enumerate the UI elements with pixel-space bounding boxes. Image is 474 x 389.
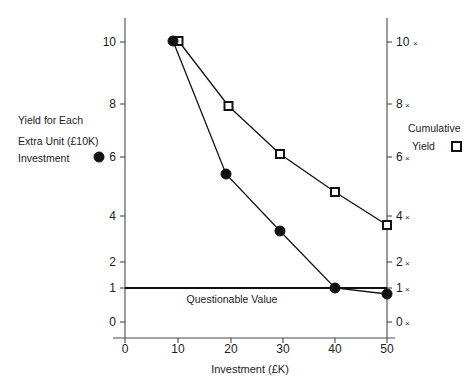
legend-open-square-icon <box>452 142 461 151</box>
bottom-tick-label-40: 40 <box>328 342 342 356</box>
bottom-tick-label-0: 0 <box>122 342 129 356</box>
legend-right-line-2: Yield <box>412 140 435 152</box>
legend-left-line-1: Yield for Each <box>18 114 83 126</box>
legend-left-line-2: Extra Unit (£10K) <box>18 135 99 147</box>
legend-filled-circle-icon <box>94 152 104 162</box>
marginal-yield-point-10 <box>168 36 178 46</box>
questionable-value-annotation: Questionable Value <box>187 293 278 305</box>
left-tick-label-8: 8 <box>109 97 116 111</box>
legend-left-line-3: Investment <box>18 152 69 164</box>
marginal-yield-point-50 <box>382 289 392 299</box>
right-tick-suffix-1: × <box>405 285 410 294</box>
cumulative-yield-point-20 <box>225 102 233 110</box>
right-tick-suffix-2: × <box>405 259 410 268</box>
left-tick-label-6: 6 <box>109 150 116 164</box>
right-tick-suffix-6: × <box>405 154 410 163</box>
cumulative-yield-point-30 <box>276 150 284 158</box>
left-tick-label-10: 10 <box>103 35 117 49</box>
right-tick-suffix-0: × <box>405 319 410 328</box>
marginal-yield-point-20 <box>221 169 231 179</box>
right-tick-suffix-4: × <box>405 213 410 222</box>
cumulative-yield-point-50 <box>383 221 391 229</box>
right-tick-label-0: 0 <box>396 315 403 329</box>
legend-right-line-1: Cumulative <box>408 122 461 134</box>
marginal-yield-point-30 <box>275 226 285 236</box>
chart-figure: 10 8 6 4 2 1 0 10 × 8 × <box>0 0 474 389</box>
right-tick-label-6: 6 <box>396 150 403 164</box>
left-tick-label-2: 2 <box>109 255 116 269</box>
marginal-yield-point-40 <box>330 283 340 293</box>
right-tick-label-10: 10 <box>396 35 410 49</box>
right-tick-label-1: 1 <box>396 281 403 295</box>
bottom-tick-label-30: 30 <box>276 342 290 356</box>
investment-yield-line-chart: 10 8 6 4 2 1 0 10 × 8 × <box>0 0 474 389</box>
right-tick-label-4: 4 <box>396 209 403 223</box>
right-tick-suffix-10: × <box>413 39 418 48</box>
left-tick-label-0: 0 <box>109 315 116 329</box>
bottom-tick-label-10: 10 <box>171 342 185 356</box>
left-tick-label-1: 1 <box>109 281 116 295</box>
chart-background <box>0 0 474 389</box>
right-tick-label-2: 2 <box>396 255 403 269</box>
right-tick-label-8: 8 <box>396 97 403 111</box>
bottom-tick-label-20: 20 <box>224 342 238 356</box>
bottom-tick-label-50: 50 <box>380 342 394 356</box>
cumulative-yield-point-40 <box>331 188 339 196</box>
left-tick-label-4: 4 <box>109 209 116 223</box>
right-tick-suffix-8: × <box>405 101 410 110</box>
x-axis-title: Investment (£K) <box>211 363 289 375</box>
